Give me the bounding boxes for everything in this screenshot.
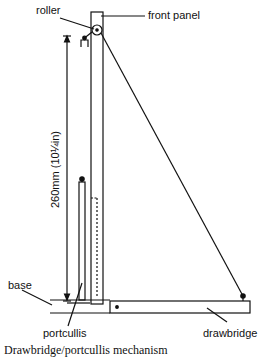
portcullis-label: portcullis <box>43 327 86 339</box>
base-label: base <box>8 279 32 291</box>
front-panel <box>91 12 103 304</box>
figure-caption: Drawbridge/portcullis mechanism <box>4 343 168 358</box>
drawbridge-label: drawbridge <box>203 327 257 339</box>
drawbridge <box>110 301 250 313</box>
drawbridge-cord <box>101 33 243 296</box>
roller-label: roller <box>36 4 60 16</box>
mechanism-diagram <box>0 0 262 358</box>
portcullis <box>79 182 85 300</box>
front-panel-label: front panel <box>148 9 200 21</box>
dimension-label: 260mm (10¼in) <box>49 131 61 208</box>
